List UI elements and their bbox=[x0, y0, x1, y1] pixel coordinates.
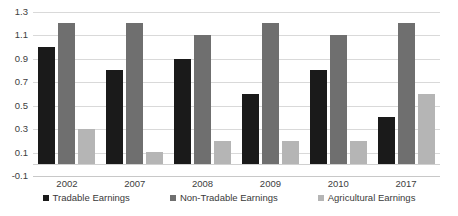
y-axis-tick-label: 1.1 bbox=[2, 30, 28, 40]
bar-group bbox=[372, 12, 440, 164]
legend-swatch-icon bbox=[43, 195, 49, 201]
x-axis-tick-label: 2002 bbox=[33, 179, 101, 189]
legend-label: Non-Tradable Earnings bbox=[180, 193, 278, 203]
legend-swatch-icon bbox=[170, 195, 176, 201]
bar bbox=[330, 35, 347, 164]
x-axis-tick-label: 2017 bbox=[372, 179, 440, 189]
bar bbox=[174, 59, 191, 164]
bar bbox=[242, 94, 259, 164]
bar-group bbox=[33, 12, 101, 164]
y-axis-tick-label: 0.1 bbox=[2, 148, 28, 158]
bar bbox=[350, 141, 367, 164]
legend-item[interactable]: Agricultural Earnings bbox=[318, 193, 416, 203]
legend-swatch-icon bbox=[318, 195, 324, 201]
bar bbox=[38, 47, 55, 164]
x-axis-tick-label: 2010 bbox=[304, 179, 372, 189]
plot-area bbox=[33, 12, 440, 176]
bar bbox=[194, 35, 211, 164]
legend-item[interactable]: Non-Tradable Earnings bbox=[170, 193, 278, 203]
bar-group bbox=[237, 12, 305, 164]
bar-chart: 1.31.10.90.70.50.30.1-0.1 20022007200820… bbox=[0, 0, 458, 216]
bar bbox=[146, 152, 163, 164]
chart-legend: Tradable EarningsNon-Tradable EarningsAg… bbox=[0, 193, 458, 203]
x-axis-tick-label: 2007 bbox=[101, 179, 169, 189]
bar bbox=[126, 23, 143, 164]
bar-group bbox=[169, 12, 237, 164]
x-axis-tick-label: 2009 bbox=[237, 179, 305, 189]
bar bbox=[398, 23, 415, 164]
y-axis-tick-label: 0.5 bbox=[2, 101, 28, 111]
legend-label: Tradable Earnings bbox=[53, 193, 130, 203]
bar bbox=[418, 94, 435, 164]
gridline bbox=[33, 176, 440, 177]
legend-label: Agricultural Earnings bbox=[328, 193, 416, 203]
bar-group bbox=[304, 12, 372, 164]
bar bbox=[78, 129, 95, 164]
x-axis-tick-label: 2008 bbox=[169, 179, 237, 189]
y-axis-tick-label: 1.3 bbox=[2, 7, 28, 17]
y-axis-tick-label: -0.1 bbox=[2, 171, 28, 181]
y-axis-tick-label: 0.9 bbox=[2, 54, 28, 64]
bar bbox=[310, 70, 327, 164]
y-axis-tick-label: 0.7 bbox=[2, 77, 28, 87]
y-axis-tick-label: 0.3 bbox=[2, 124, 28, 134]
bar bbox=[262, 23, 279, 164]
bar bbox=[214, 141, 231, 164]
bar bbox=[58, 23, 75, 164]
bar bbox=[378, 117, 395, 164]
bar bbox=[106, 70, 123, 164]
legend-item[interactable]: Tradable Earnings bbox=[43, 193, 130, 203]
bar-group bbox=[101, 12, 169, 164]
bar bbox=[282, 141, 299, 164]
zero-baseline bbox=[33, 164, 440, 165]
